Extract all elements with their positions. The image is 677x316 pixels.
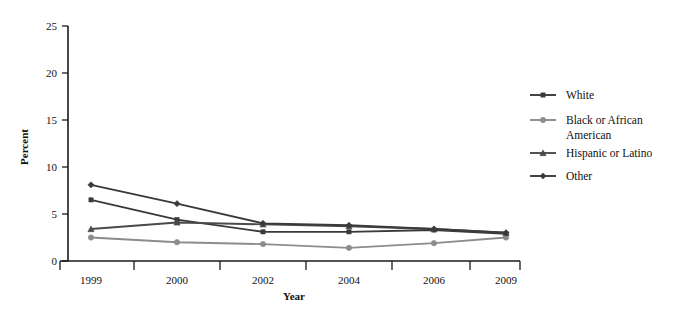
y-axis-ticks: 0510152025 [46,20,68,267]
legend-label: White [566,89,594,101]
legend-label: Hispanic or Latino [566,147,652,160]
legend-label: Black or African [566,114,643,126]
data-point-diamond [540,173,546,179]
x-tick-label: 2004 [338,274,361,286]
data-point-circle [431,240,436,245]
y-tick-label: 10 [46,161,58,173]
legend-item-black-or-african[interactable]: Black or AfricanAmerican [530,114,643,141]
data-point-square [541,93,545,97]
data-point-circle [346,245,351,250]
x-tick-label: 2000 [166,274,189,286]
y-tick-label: 20 [46,67,58,79]
y-tick-label: 5 [52,208,58,220]
data-point-square [347,230,351,234]
legend-label: Other [566,170,592,182]
line-chart: 0510152025 199920002002200420062009 Perc… [0,0,677,316]
chart-legend: WhiteBlack or AfricanAmericanHispanic or… [530,89,652,182]
data-series-group [88,182,509,251]
x-tick-label: 2009 [495,274,518,286]
x-tick-label: 2006 [423,274,446,286]
series-black-or-african-american [88,235,508,251]
y-tick-label: 0 [52,255,58,267]
data-point-square [89,198,93,202]
legend-item-other[interactable]: Other [530,170,592,182]
series-other [88,182,509,236]
x-tick-label: 1999 [80,274,103,286]
series-line [91,238,506,248]
chart-figure: 0510152025 199920002002200420062009 Perc… [0,0,677,316]
x-tick-label: 2002 [252,274,274,286]
y-axis-title: Percent [18,129,30,165]
x-axis-ticks: 199920002002200420062009 [60,261,520,286]
legend-item-hispanic-or-latino[interactable]: Hispanic or Latino [530,147,652,160]
data-point-circle [174,240,179,245]
data-point-circle [88,235,93,240]
data-point-diamond [174,201,180,207]
series-hispanic-or-latino [88,219,509,235]
legend-item-white[interactable]: White [530,89,594,101]
data-point-circle [540,117,545,122]
y-tick-label: 15 [46,114,58,126]
x-axis-title: Year [283,290,305,302]
y-tick-label: 25 [46,20,58,32]
data-point-diamond [88,182,94,188]
data-point-square [261,230,265,234]
data-point-circle [260,241,265,246]
legend-label-line2: American [566,129,612,141]
